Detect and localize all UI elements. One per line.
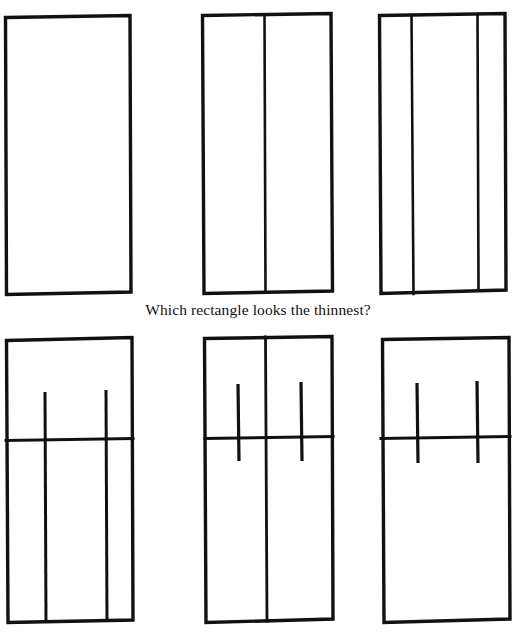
panel-bottom-right[interactable]: [381, 338, 510, 623]
bottom-row: [6, 337, 510, 623]
short-stroke-1: [417, 383, 418, 463]
figure-caption: Which rectangle looks the thinnest?: [0, 300, 516, 320]
horizontal-divider-1: [381, 437, 510, 439]
vertical-stroke-1: [45, 392, 46, 622]
vertical-divider-1: [265, 15, 266, 293]
horizontal-divider-1: [6, 439, 133, 441]
short-stroke-2: [301, 382, 302, 461]
panel-top-middle[interactable]: [203, 14, 333, 294]
short-stroke-1: [238, 384, 239, 461]
rectangle-outline: [380, 14, 507, 294]
rectangle-outline: [383, 338, 511, 623]
rectangle-outline: [7, 338, 134, 623]
rectangle-outline: [203, 14, 333, 294]
top-row: [6, 14, 507, 295]
panel-top-right[interactable]: [380, 14, 507, 295]
panel-top-left[interactable]: [6, 16, 132, 295]
panel-bottom-middle[interactable]: [205, 337, 334, 623]
vertical-stroke-2: [106, 390, 107, 621]
short-stroke-2: [477, 381, 478, 463]
panel-bottom-left[interactable]: [6, 338, 133, 623]
vertical-divider-2: [478, 14, 479, 288]
vertical-divider-1: [266, 337, 268, 621]
horizontal-divider-1: [205, 437, 333, 439]
rectangle-outline: [205, 337, 334, 623]
rectangle-outline: [6, 16, 132, 295]
